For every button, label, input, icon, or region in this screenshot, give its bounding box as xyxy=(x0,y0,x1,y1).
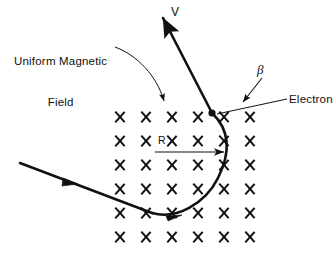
beta-pointer-arrow xyxy=(243,78,262,102)
field-cross-19 xyxy=(139,182,153,196)
field-cross-28 xyxy=(217,206,231,220)
field-cross-33 xyxy=(191,230,205,244)
field-cross-6 xyxy=(113,134,127,148)
field-cross-34 xyxy=(217,230,231,244)
field-cross-4 xyxy=(217,110,231,124)
trajectory-arc-in-field xyxy=(152,113,227,215)
velocity-label: V xyxy=(171,5,179,19)
field-cross-7 xyxy=(139,134,153,148)
field-cross-26 xyxy=(165,206,179,220)
uniform-magnetic-field-label: Uniform Magnetic Field xyxy=(14,28,107,137)
field-cross-23 xyxy=(243,182,257,196)
field-cross-30 xyxy=(113,230,127,244)
field-cross-1 xyxy=(139,110,153,124)
field-cross-21 xyxy=(191,182,205,196)
field-cross-20 xyxy=(165,182,179,196)
field-cross-10 xyxy=(217,134,231,148)
field-cross-15 xyxy=(191,158,205,172)
radius-label: R xyxy=(158,134,166,146)
trajectory-incoming-segment xyxy=(20,163,152,213)
field-cross-27 xyxy=(191,206,205,220)
field-cross-16 xyxy=(217,158,231,172)
field-cross-14 xyxy=(165,158,179,172)
uniform-magnetic-field-label-line2: Field xyxy=(14,96,107,110)
field-cross-8 xyxy=(165,134,179,148)
field-cross-12 xyxy=(113,158,127,172)
field-cross-17 xyxy=(243,158,257,172)
field-cross-25 xyxy=(139,206,153,220)
field-cross-32 xyxy=(165,230,179,244)
magnetic-field-electron-trajectory-diagram: Uniform Magnetic Field V β Electron R xyxy=(0,0,334,263)
field-cross-35 xyxy=(243,230,257,244)
uniform-magnetic-field-label-line1: Uniform Magnetic xyxy=(14,55,107,69)
field-cross-18 xyxy=(113,182,127,196)
field-cross-0 xyxy=(113,110,127,124)
electron-label: Electron xyxy=(289,93,333,107)
beta-angle-label: β xyxy=(257,62,263,77)
field-cross-9 xyxy=(191,134,205,148)
field-cross-22 xyxy=(217,182,231,196)
field-cross-11 xyxy=(243,134,257,148)
field-cross-13 xyxy=(139,158,153,172)
field-cross-31 xyxy=(139,230,153,244)
velocity-vector-arrow xyxy=(163,18,212,113)
field-cross-24 xyxy=(113,206,127,220)
field-cross-3 xyxy=(191,110,205,124)
electron-dot xyxy=(208,109,215,116)
field-cross-5 xyxy=(243,110,257,124)
field-cross-29 xyxy=(243,206,257,220)
field-cross-2 xyxy=(165,110,179,124)
uniform-field-pointer-arrow xyxy=(115,47,164,101)
